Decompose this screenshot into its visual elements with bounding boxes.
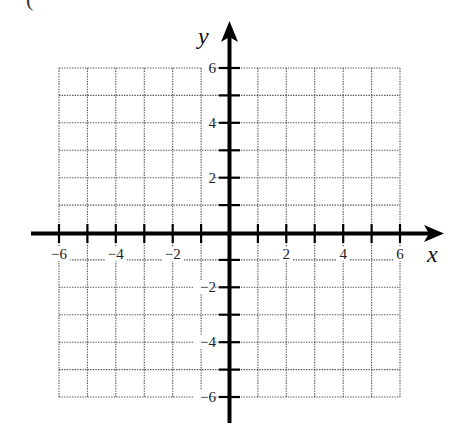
y-axis: [219, 21, 240, 423]
coordinate-plane: −6 −4 −2 2 4 6 6 4 2 −2 −4 −6 y x: [0, 0, 468, 441]
y-tick-label: 6: [209, 60, 217, 76]
y-tick-label: −2: [200, 279, 216, 295]
x-tick-label: −4: [108, 246, 124, 262]
y-tick-label: 2: [209, 170, 217, 186]
x-tick-label: −6: [51, 246, 67, 262]
y-tick-label: −4: [200, 334, 216, 350]
x-axis-label: x: [426, 241, 438, 267]
y-axis-label: y: [196, 23, 209, 49]
y-tick-label: −6: [200, 389, 216, 405]
x-tick-label: −2: [165, 246, 181, 262]
y-tick-label: 4: [209, 115, 217, 131]
x-tick-label: 2: [283, 246, 291, 262]
x-axis: [31, 224, 444, 243]
x-tick-label: 6: [396, 246, 404, 262]
x-tick-label: 4: [339, 246, 347, 262]
